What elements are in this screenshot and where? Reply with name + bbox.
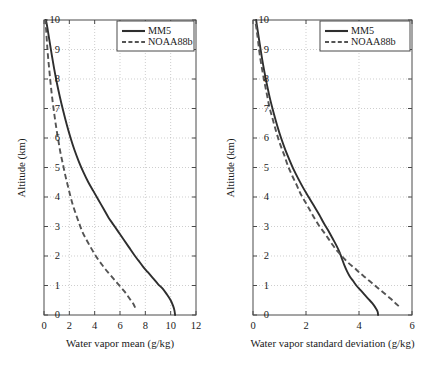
series-line-noaa88b	[255, 20, 398, 306]
legend-label-noaa88b: NOAA88b	[351, 37, 396, 47]
ytick-label: 10	[247, 15, 269, 26]
legend-label-noaa88b: NOAA88b	[148, 37, 193, 47]
ytick-label: 6	[247, 133, 269, 144]
legend-label-mm5: MM5	[351, 26, 374, 36]
ytick-label: 2	[247, 251, 269, 262]
xtick-label: 2	[303, 321, 308, 332]
ytick-label: 1	[38, 280, 60, 291]
ytick-label: 8	[38, 74, 60, 85]
xtick-label: 6	[409, 321, 414, 332]
x-axis-title: Water vapor standard deviation (g/kg)	[250, 338, 414, 349]
ytick-label: 9	[247, 44, 269, 55]
ytick-label: 3	[247, 221, 269, 232]
ytick-label: 4	[38, 192, 60, 203]
ytick-label: 9	[38, 44, 60, 55]
plot-svg-left	[0, 0, 212, 365]
xtick-label: 0	[250, 321, 255, 332]
xtick-label: 10	[165, 321, 176, 332]
xtick-label: 4	[356, 321, 361, 332]
ytick-label: 0	[247, 310, 269, 321]
plot-svg-right	[212, 0, 424, 365]
chart-panel-water-vapor-mean: MM5NOAA88b024681012012345678910Water vap…	[0, 0, 212, 365]
ytick-label: 7	[38, 103, 60, 114]
ytick-label: 5	[247, 162, 269, 173]
xtick-label: 8	[143, 321, 148, 332]
y-axis-title: Altitude (km)	[225, 138, 236, 197]
ytick-label: 3	[38, 221, 60, 232]
legend-label-mm5: MM5	[148, 26, 171, 36]
ytick-label: 8	[247, 74, 269, 85]
x-axis-title: Water vapor mean (g/kg)	[66, 338, 174, 349]
ytick-label: 0	[38, 310, 60, 321]
ytick-label: 2	[38, 251, 60, 262]
figure-container: MM5NOAA88b024681012012345678910Water vap…	[0, 0, 424, 365]
ytick-label: 5	[38, 162, 60, 173]
y-axis-title: Altitude (km)	[16, 138, 27, 197]
xtick-label: 2	[67, 321, 72, 332]
chart-panel-water-vapor-std: MM5NOAA88b0246012345678910Water vapor st…	[212, 0, 424, 365]
ytick-label: 7	[247, 103, 269, 114]
xtick-label: 4	[92, 321, 97, 332]
ytick-label: 10	[38, 15, 60, 26]
xtick-label: 12	[191, 321, 202, 332]
ytick-label: 1	[247, 280, 269, 291]
ytick-label: 4	[247, 192, 269, 203]
xtick-label: 6	[117, 321, 122, 332]
xtick-label: 0	[41, 321, 46, 332]
ytick-label: 6	[38, 133, 60, 144]
